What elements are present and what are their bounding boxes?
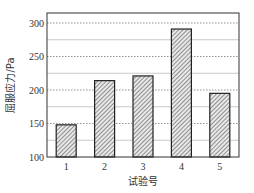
- x-tick-label: 4: [179, 161, 184, 172]
- y-tick-label: 100: [29, 152, 44, 163]
- x-tick-label: 1: [64, 161, 69, 172]
- bar-chart: 100150200250300 12345 试验号 屈服应力/Pa: [0, 0, 254, 193]
- y-tick-label: 300: [29, 18, 44, 29]
- bar-2: [95, 81, 115, 157]
- y-tick-label: 150: [29, 118, 44, 129]
- x-axis-label: 试验号: [128, 175, 158, 187]
- bar-1: [56, 125, 76, 157]
- bar-4: [171, 29, 191, 157]
- y-axis-label: 屈服应力/Pa: [4, 57, 16, 112]
- bar-5: [210, 93, 230, 157]
- y-axis-ticks: 100150200250300: [29, 18, 44, 163]
- bar-3: [133, 76, 153, 157]
- x-axis-ticks: 12345: [64, 161, 223, 172]
- bars: [56, 29, 230, 157]
- y-tick-label: 200: [29, 85, 44, 96]
- x-tick-label: 3: [141, 161, 146, 172]
- y-tick-label: 250: [29, 51, 44, 62]
- x-tick-label: 5: [217, 161, 222, 172]
- x-tick-label: 2: [102, 161, 107, 172]
